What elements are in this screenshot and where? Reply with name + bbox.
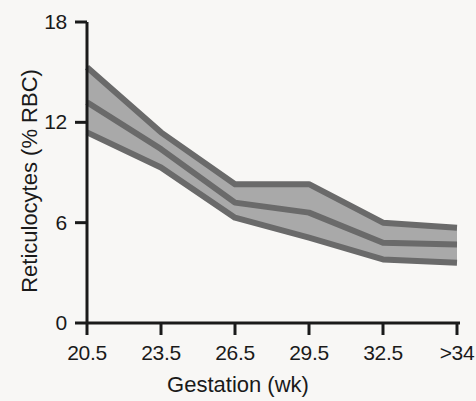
x-tick-label: 23.5 (141, 341, 181, 365)
x-tick-label: 32.5 (363, 341, 403, 365)
reticulocyte-gestation-chart: 061218 20.523.526.529.532.5>34 Reticuloc… (0, 0, 476, 401)
band-fill (87, 67, 457, 263)
x-tick-label: >34 (440, 341, 475, 365)
x-tick-label: 26.5 (215, 341, 255, 365)
x-axis-title: Gestation (wk) (0, 372, 476, 398)
axis-ticks (75, 22, 457, 335)
axis-lines (87, 22, 460, 323)
confidence-band (87, 67, 457, 263)
x-tick-label: 29.5 (289, 341, 329, 365)
y-axis-title: Reticulocytes (% RBC) (17, 26, 43, 336)
x-tick-label: 20.5 (67, 341, 107, 365)
